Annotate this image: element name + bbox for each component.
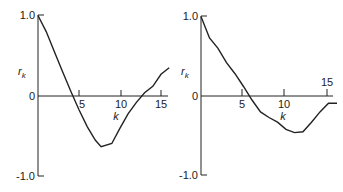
- right-series-line: [201, 17, 337, 133]
- left-xtick-5: 5: [79, 98, 85, 110]
- right-ytick-top: 1.0: [183, 10, 198, 22]
- left-xtick-15: 15: [155, 98, 167, 110]
- chart-canvas: 1.0 0 -1.0 5 10 15 k rk 1.0 0 -1.0 5 10 …: [0, 0, 343, 192]
- left-series-line: [38, 16, 169, 147]
- left-chart: 1.0 0 -1.0 5 10 15 k rk: [16, 9, 169, 182]
- left-ytick-bottom: -1.0: [16, 170, 35, 182]
- left-ylabel: rk: [18, 65, 27, 80]
- left-xtick-10: 10: [115, 98, 127, 110]
- right-ytick-bottom: -1.0: [179, 169, 198, 181]
- right-xtick-10: 10: [278, 98, 290, 110]
- right-xtick-5: 5: [239, 98, 245, 110]
- right-xlabel: k: [280, 110, 286, 122]
- left-ytick-top: 1.0: [20, 9, 35, 21]
- left-ytick-zero: 0: [29, 90, 35, 102]
- right-chart: 1.0 0 -1.0 5 10 15 k rk: [179, 10, 337, 181]
- left-xlabel: k: [113, 110, 119, 122]
- right-ytick-zero: 0: [192, 90, 198, 102]
- right-ylabel: rk: [181, 65, 190, 80]
- right-xtick-15: 15: [321, 76, 333, 88]
